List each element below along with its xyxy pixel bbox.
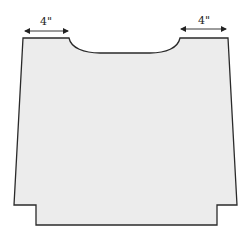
right-dimension-label: 4" xyxy=(198,14,210,27)
right-shoulder-dimension: 4" xyxy=(181,14,226,29)
pattern-diagram: 4" 4" xyxy=(0,0,247,234)
pattern-panel xyxy=(14,38,237,225)
left-dimension-label: 4" xyxy=(40,15,52,28)
left-shoulder-dimension: 4" xyxy=(25,15,68,31)
